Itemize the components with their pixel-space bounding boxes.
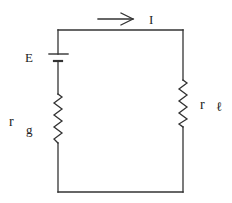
current-label: I bbox=[149, 12, 153, 27]
load-resistor-subscript: ℓ bbox=[216, 99, 222, 114]
battery-label: E bbox=[25, 50, 33, 65]
battery-icon bbox=[49, 54, 68, 61]
internal-resistor-label: r bbox=[9, 114, 14, 129]
load-resistor-icon bbox=[179, 80, 187, 127]
load-resistor-label: r bbox=[200, 97, 205, 112]
current-arrow-icon bbox=[98, 13, 133, 25]
circuit-diagram: I E r g r ℓ bbox=[0, 0, 232, 203]
internal-resistor-subscript: g bbox=[26, 122, 33, 137]
internal-resistor-icon bbox=[54, 94, 62, 143]
